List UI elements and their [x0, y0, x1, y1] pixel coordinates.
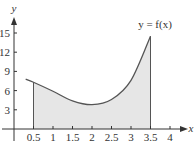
y-tick-label: 15: [0, 27, 11, 39]
y-tick-label: 12: [0, 46, 10, 58]
x-tick-label: 1: [50, 131, 56, 143]
y-axis-arrow-icon: [11, 17, 17, 25]
x-tick-label: 2.5: [105, 131, 119, 143]
y-tick-label: 6: [5, 85, 11, 97]
x-axis-label: x: [188, 122, 194, 134]
x-tick-label: 2: [89, 131, 95, 143]
shaded-area: [34, 36, 151, 129]
curve-label: y = f(x): [138, 18, 172, 31]
chart: 0.511.522.533.543691215xyy = f(x): [0, 0, 195, 144]
x-tick-label: 3.5: [144, 131, 158, 143]
y-tick-label: 3: [5, 104, 11, 116]
y-axis-label: y: [11, 2, 17, 14]
x-tick-label: 0.5: [27, 131, 41, 143]
x-tick-label: 1.5: [66, 131, 80, 143]
x-tick-label: 4: [167, 131, 173, 143]
y-tick-label: 9: [5, 65, 11, 77]
x-axis-arrow-icon: [180, 126, 188, 132]
x-tick-label: 3: [128, 131, 134, 143]
